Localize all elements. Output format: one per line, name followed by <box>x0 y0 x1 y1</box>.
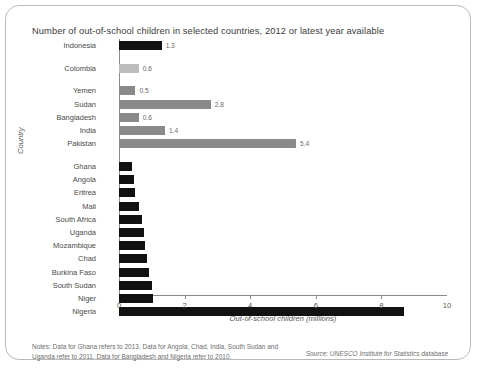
bar[interactable] <box>119 64 139 73</box>
category-label: Nigeria <box>72 307 96 316</box>
x-tick <box>381 295 382 299</box>
x-tick <box>316 295 317 299</box>
category-label-wrap: Chad <box>0 254 96 263</box>
x-tick <box>185 295 186 299</box>
bar[interactable] <box>119 100 211 109</box>
category-label: Colombia <box>64 64 96 73</box>
bar-row <box>119 241 447 250</box>
bar[interactable] <box>119 268 149 277</box>
category-label-wrap: Ghana <box>0 162 96 171</box>
bar-row: 0.6 <box>119 113 447 122</box>
bar-value-label: 1.4 <box>169 127 178 134</box>
category-label-wrap: South Africa <box>0 215 96 224</box>
chart-source: Source: UNESCO Institute for Statistics … <box>306 350 448 357</box>
bar-row <box>119 281 447 290</box>
bar-row <box>119 215 447 224</box>
bar[interactable] <box>119 202 139 211</box>
bar[interactable] <box>119 162 132 171</box>
category-label: South Sudan <box>53 281 96 290</box>
bar[interactable] <box>119 228 144 237</box>
bar[interactable] <box>119 188 135 197</box>
category-label-wrap: Sudan <box>0 100 96 109</box>
category-label: Bangladesh <box>56 113 96 122</box>
category-label-wrap: Bangladesh <box>0 113 96 122</box>
bar-row <box>119 228 447 237</box>
bar-value-label: 0.6 <box>143 114 152 121</box>
x-tick-label: 8 <box>379 301 383 310</box>
x-tick-label: 4 <box>248 301 252 310</box>
category-label-wrap: Colombia <box>0 64 96 73</box>
bar[interactable] <box>119 175 134 184</box>
category-label-wrap: Mali <box>0 202 96 211</box>
bar[interactable] <box>119 41 162 50</box>
category-label-wrap: Yemen <box>0 86 96 95</box>
category-label-wrap: South Sudan <box>0 281 96 290</box>
bar[interactable] <box>119 113 139 122</box>
category-label: Eritrea <box>74 188 96 197</box>
bar-value-label: 0.6 <box>143 65 152 72</box>
bar-row <box>119 162 447 171</box>
chart-title: Number of out-of-school children in sele… <box>32 26 452 36</box>
bar-row: 1.3 <box>119 41 447 50</box>
bar-value-label: 1.3 <box>166 42 175 49</box>
bar-row <box>119 175 447 184</box>
x-tick-label: 6 <box>314 301 318 310</box>
bar-row <box>119 188 447 197</box>
x-tick-label: 10 <box>443 301 451 310</box>
bar-value-label: 5.4 <box>300 140 309 147</box>
category-label-wrap: Eritrea <box>0 188 96 197</box>
x-tick-label: 0 <box>117 301 121 310</box>
bar-row: 1.4 <box>119 126 447 135</box>
bar[interactable] <box>119 294 153 303</box>
bar[interactable] <box>119 86 135 95</box>
category-label: Yemen <box>73 86 96 95</box>
category-label: Chad <box>78 254 96 263</box>
category-label: Mali <box>82 202 96 211</box>
bar-row <box>119 254 447 263</box>
category-label-wrap: Pakistan <box>0 139 96 148</box>
bar-row <box>119 294 447 303</box>
bar[interactable] <box>119 215 142 224</box>
category-label: South Africa <box>56 215 96 224</box>
bar[interactable] <box>119 241 145 250</box>
chart-frame: Number of out-of-school children in sele… <box>5 5 471 360</box>
bar[interactable] <box>119 139 296 148</box>
bar-row <box>119 268 447 277</box>
category-label: Niger <box>78 294 96 303</box>
bar[interactable] <box>119 126 165 135</box>
category-label: Mozambique <box>53 241 96 250</box>
category-label-wrap: Indonesia <box>0 41 96 50</box>
bar-row: 0.5 <box>119 86 447 95</box>
category-label: Burkina Faso <box>52 268 96 277</box>
category-label-wrap: Nigeria <box>0 307 96 316</box>
category-label: Indonesia <box>63 41 96 50</box>
category-label: Angola <box>73 175 96 184</box>
bar-value-label: 2.8 <box>215 101 224 108</box>
bar-row: 5.4 <box>119 139 447 148</box>
x-tick <box>250 295 251 299</box>
bar-row <box>119 202 447 211</box>
category-label: Ghana <box>73 162 96 171</box>
category-label: Pakistan <box>67 139 96 148</box>
category-label-wrap: Niger <box>0 294 96 303</box>
x-axis-label: Out-of-school children (millions) <box>119 314 447 323</box>
category-label-wrap: Burkina Faso <box>0 268 96 277</box>
bar[interactable] <box>119 281 152 290</box>
category-label-wrap: Angola <box>0 175 96 184</box>
category-label-wrap: India <box>0 126 96 135</box>
category-label: Sudan <box>74 100 96 109</box>
bar-row: 0.6 <box>119 64 447 73</box>
bar-row: 2.8 <box>119 100 447 109</box>
chart-notes: Notes: Data for Ghana refers to 2013. Da… <box>32 342 302 361</box>
category-label-wrap: Mozambique <box>0 241 96 250</box>
category-label-wrap: Uganda <box>0 228 96 237</box>
bar-value-label: 0.5 <box>139 87 148 94</box>
category-label: India <box>80 126 96 135</box>
bar[interactable] <box>119 254 147 263</box>
x-tick-label: 2 <box>182 301 186 310</box>
category-label: Uganda <box>70 228 96 237</box>
